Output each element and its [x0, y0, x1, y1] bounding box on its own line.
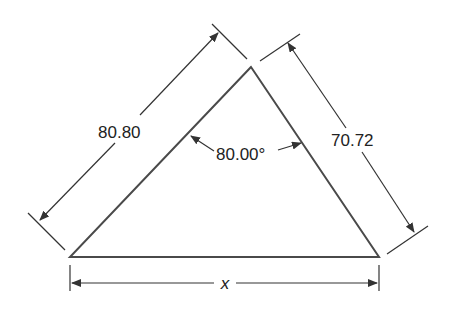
- apex-angle-label: 80.00°: [216, 145, 265, 164]
- right-side-label: 70.72: [331, 131, 374, 150]
- left-extension-bottom: [28, 213, 65, 250]
- left-dimension-line-upper: [140, 33, 218, 115]
- right-extension-top: [260, 34, 300, 61]
- base-label: x: [220, 274, 230, 293]
- angle-arrow-right: [278, 143, 301, 150]
- triangle-diagram: 80.80 70.72 80.00° x: [0, 0, 453, 309]
- left-side-label: 80.80: [98, 123, 141, 142]
- angle-arrow-left: [191, 136, 214, 151]
- left-dimension-line-lower: [40, 143, 115, 220]
- right-dimension-line-lower: [362, 152, 414, 232]
- right-dimension-line-upper: [288, 43, 346, 128]
- right-extension-bottom: [387, 226, 428, 254]
- left-extension-top: [212, 24, 247, 59]
